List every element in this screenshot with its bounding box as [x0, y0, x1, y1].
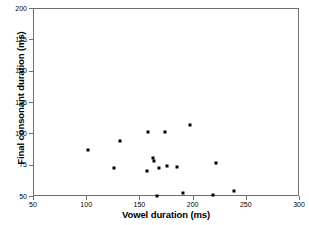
data-point: [175, 166, 178, 169]
x-tick-mark: [33, 196, 34, 200]
data-point: [163, 131, 166, 134]
scatter-plot-figure: Final consonant duration (ms) 5075100125…: [0, 0, 309, 225]
y-tick-label: 150: [4, 67, 27, 74]
y-tick-label: 125: [4, 99, 27, 106]
data-point: [156, 195, 159, 198]
y-tick-label: 75: [4, 161, 27, 168]
data-point: [211, 193, 214, 196]
data-point: [182, 192, 185, 195]
data-point: [112, 167, 115, 170]
y-tick-label: 175: [4, 36, 27, 43]
data-point: [189, 123, 192, 126]
data-point: [233, 189, 236, 192]
data-point: [166, 164, 169, 167]
data-point: [157, 167, 160, 170]
y-tick-label: 50: [4, 193, 27, 200]
plot-area: [33, 8, 299, 196]
data-point: [87, 148, 90, 151]
data-point: [145, 169, 148, 172]
x-tick-label: 250: [231, 201, 261, 208]
y-tick-label: 200: [4, 5, 27, 12]
x-tick-label: 100: [71, 201, 101, 208]
x-tick-label: 200: [178, 201, 208, 208]
x-tick-mark: [86, 196, 87, 200]
data-point: [153, 159, 156, 162]
x-tick-mark: [139, 196, 140, 200]
x-axis-title: Vowel duration (ms): [33, 209, 299, 220]
y-tick-label: 100: [4, 130, 27, 137]
data-point: [215, 162, 218, 165]
x-tick-label: 50: [18, 201, 48, 208]
x-tick-mark: [193, 196, 194, 200]
x-tick-mark: [246, 196, 247, 200]
data-point: [146, 131, 149, 134]
x-tick-label: 150: [124, 201, 154, 208]
x-tick-label: 300: [284, 201, 309, 208]
data-point: [119, 139, 122, 142]
x-tick-mark: [299, 196, 300, 200]
